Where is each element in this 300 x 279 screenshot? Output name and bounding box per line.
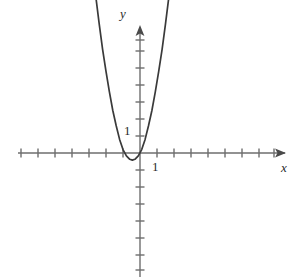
parabola-curve — [82, 0, 181, 160]
y-axis-label: y — [120, 6, 126, 22]
parabola-graph-figure: y x 1 1 — [0, 0, 300, 279]
y-axis-tick-label-one: 1 — [124, 123, 131, 139]
x-axis-tick-label-one: 1 — [152, 159, 159, 175]
x-axis-label: x — [281, 160, 287, 176]
plot-canvas — [0, 0, 300, 279]
